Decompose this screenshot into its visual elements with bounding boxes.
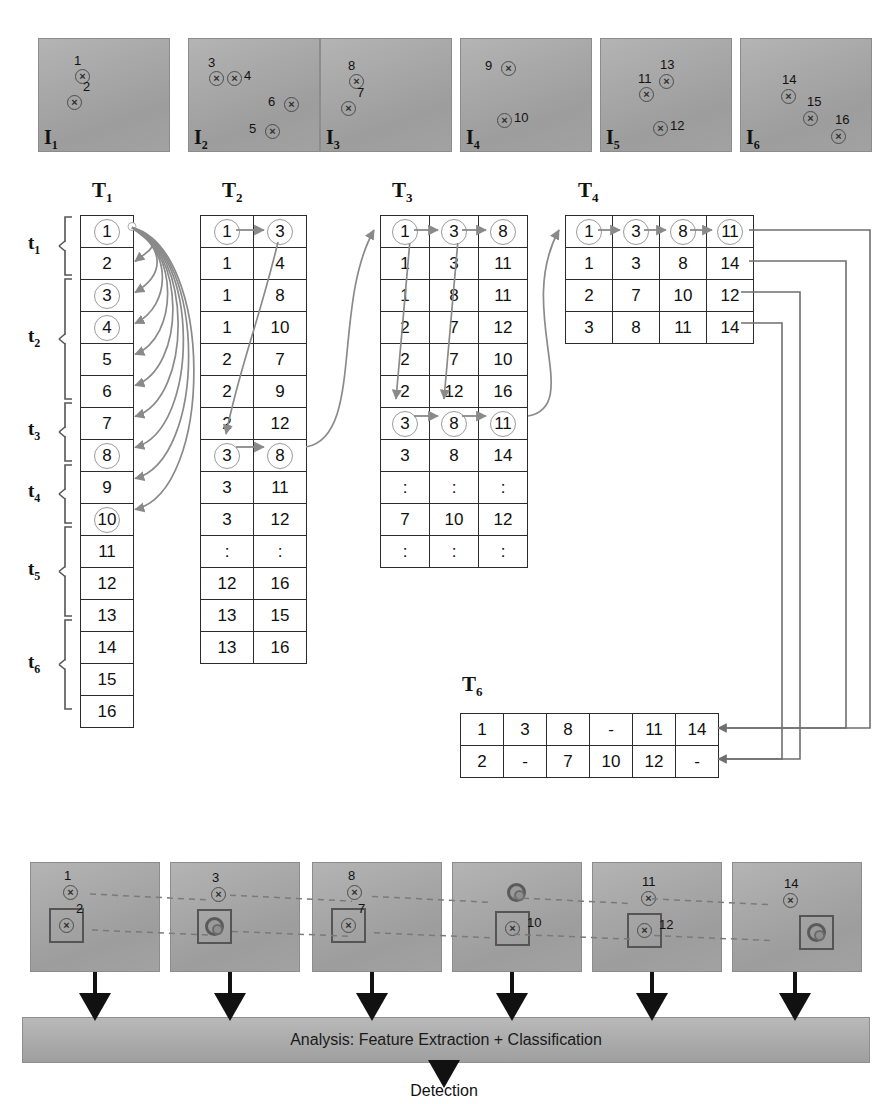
table-cell: 7 — [81, 408, 134, 440]
table-cell: 8 — [660, 248, 707, 280]
detection-marker-icon — [831, 129, 846, 144]
table-row[interactable]: 110 — [201, 312, 307, 344]
table-cell: 10 — [660, 280, 707, 312]
table-row[interactable]: 4 — [81, 312, 134, 344]
table-row[interactable]: 311 — [201, 472, 307, 504]
table-row[interactable]: 6 — [81, 376, 134, 408]
table-cell: 7 — [430, 344, 479, 376]
table-row[interactable]: ::: — [381, 472, 528, 504]
table-row[interactable]: 2710 — [381, 344, 528, 376]
table-cell: 8 — [254, 280, 307, 312]
table-row[interactable]: 12 — [81, 568, 134, 600]
tracked-image-frame-1: 12 — [30, 862, 160, 972]
detection-marker-number: 2 — [76, 901, 83, 916]
table-row[interactable]: 1315 — [201, 600, 307, 632]
table-row[interactable]: 2-71012- — [461, 746, 719, 778]
highlight-circle: 1 — [576, 219, 602, 245]
table-row[interactable]: 13811 — [566, 216, 754, 248]
table-row[interactable]: 16 — [81, 696, 134, 728]
table-row[interactable]: 2712 — [381, 312, 528, 344]
table-row[interactable]: 2 — [81, 248, 134, 280]
table-row[interactable]: 138 — [381, 216, 528, 248]
image-frame-1: I112 — [38, 38, 170, 152]
highlight-circle: 1 — [392, 219, 418, 245]
table-cell: : — [430, 472, 479, 504]
table-row[interactable]: 8 — [81, 440, 134, 472]
table-row[interactable]: 7 — [81, 408, 134, 440]
detection-marker-icon — [783, 893, 798, 908]
table-row[interactable]: 71012 — [381, 504, 528, 536]
detection-marker-number: 5 — [249, 121, 256, 136]
table-row[interactable]: 14 — [81, 632, 134, 664]
table-row[interactable]: 138-1114 — [461, 714, 719, 746]
table-cell: 11 — [479, 280, 528, 312]
table-row[interactable]: 18 — [201, 280, 307, 312]
table-cell: 16 — [81, 696, 134, 728]
detection-marker-icon — [505, 921, 520, 936]
table-cell: 3 — [201, 504, 254, 536]
table-row[interactable]: 29 — [201, 376, 307, 408]
table-row[interactable]: ::: — [381, 536, 528, 568]
table-row[interactable]: 212 — [201, 408, 307, 440]
table-row[interactable]: 11 — [81, 536, 134, 568]
table-row[interactable]: 21216 — [381, 376, 528, 408]
table-row[interactable]: 1311 — [381, 248, 528, 280]
table-row[interactable]: 381114 — [566, 312, 754, 344]
table-cell: 12 — [254, 408, 307, 440]
detection-marker-number: 6 — [268, 94, 275, 109]
table-row[interactable]: 27 — [201, 344, 307, 376]
table-cell: 9 — [254, 376, 307, 408]
table-cell: 3 — [613, 248, 660, 280]
table-row[interactable]: 271012 — [566, 280, 754, 312]
table-row[interactable]: 5 — [81, 344, 134, 376]
table-cell: 7 — [254, 344, 307, 376]
table-cell: 12 — [201, 568, 254, 600]
bullseye-marker-icon — [507, 883, 526, 902]
table-row[interactable]: 38 — [201, 440, 307, 472]
table-cell: 11 — [633, 714, 676, 746]
table-cell: 2 — [461, 746, 504, 778]
table-row[interactable]: 1216 — [201, 568, 307, 600]
table-row[interactable]: 1 — [81, 216, 134, 248]
table-row[interactable]: 15 — [81, 664, 134, 696]
table-cell: 8 — [613, 312, 660, 344]
table-row[interactable]: 1316 — [201, 632, 307, 664]
detection-marker-icon — [341, 101, 356, 116]
table-row[interactable]: 312 — [201, 504, 307, 536]
table-row[interactable]: 10 — [81, 504, 134, 536]
detection-marker-number: 16 — [835, 112, 849, 127]
table-row[interactable]: 3814 — [381, 440, 528, 472]
table-cell: 7 — [381, 504, 430, 536]
table-row[interactable]: 3 — [81, 280, 134, 312]
table-cell: 14 — [707, 248, 754, 280]
time-bracket-label: t3 — [28, 418, 40, 444]
analysis-bar: Analysis: Feature Extraction + Classific… — [22, 1017, 870, 1063]
table-cell: 12 — [81, 568, 134, 600]
table-row[interactable]: 1811 — [381, 280, 528, 312]
table-cell: 3 — [254, 216, 307, 248]
table-cell: 13 — [201, 632, 254, 664]
table-cell: 8 — [547, 714, 590, 746]
table-row[interactable]: :: — [201, 536, 307, 568]
table-row[interactable]: 13 — [201, 216, 307, 248]
table-row[interactable]: 13 — [81, 600, 134, 632]
table-row[interactable]: 9 — [81, 472, 134, 504]
table-cell: 8 — [430, 280, 479, 312]
detection-marker-icon — [227, 71, 242, 86]
image-frame-2: I23465 — [188, 38, 320, 152]
table-cell: 3 — [201, 472, 254, 504]
image-frame-5: I5111312 — [600, 38, 732, 152]
tracked-image-frame-4: 10 — [452, 862, 582, 972]
detection-marker-number: 11 — [638, 71, 652, 86]
table-cell: 5 — [81, 344, 134, 376]
highlight-circle: 10 — [94, 507, 120, 533]
table-cell: 10 — [254, 312, 307, 344]
table-cell: 2 — [201, 408, 254, 440]
time-bracket-label: t1 — [28, 232, 40, 258]
table-row[interactable]: 13814 — [566, 248, 754, 280]
table-row[interactable]: 3811 — [381, 408, 528, 440]
table-cell: : — [430, 536, 479, 568]
table-cell: 7 — [547, 746, 590, 778]
table-row[interactable]: 14 — [201, 248, 307, 280]
detection-marker-number: 10 — [527, 915, 541, 930]
